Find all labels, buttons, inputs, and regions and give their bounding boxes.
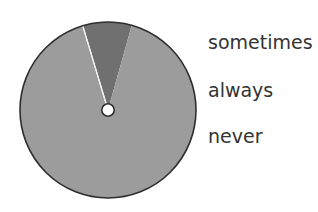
legend-label-never: never [208, 125, 262, 147]
legend-label-always: always [208, 79, 273, 101]
center-hole [102, 104, 114, 116]
legend-label-sometimes: sometimes [208, 31, 313, 53]
